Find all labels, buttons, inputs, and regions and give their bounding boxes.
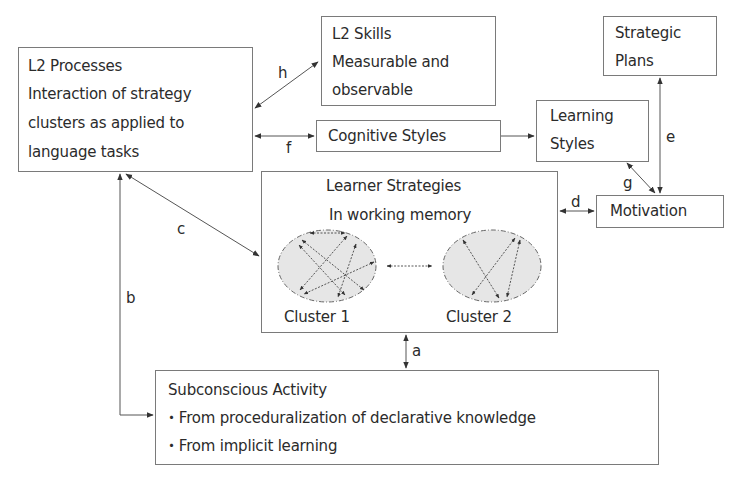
connector-lines (0, 0, 733, 483)
edge-label-b: b (126, 291, 136, 306)
edge-label-e: e (666, 130, 675, 145)
edge-label-d: d (571, 195, 581, 210)
cluster-1 (278, 230, 376, 302)
edge-label-h: h (278, 66, 288, 81)
edge-label-a: a (412, 344, 421, 359)
edge-label-f: f (286, 141, 291, 156)
edge-label-g: g (623, 176, 633, 191)
cluster-2 (443, 230, 541, 302)
edge-label-c: c (177, 222, 185, 237)
